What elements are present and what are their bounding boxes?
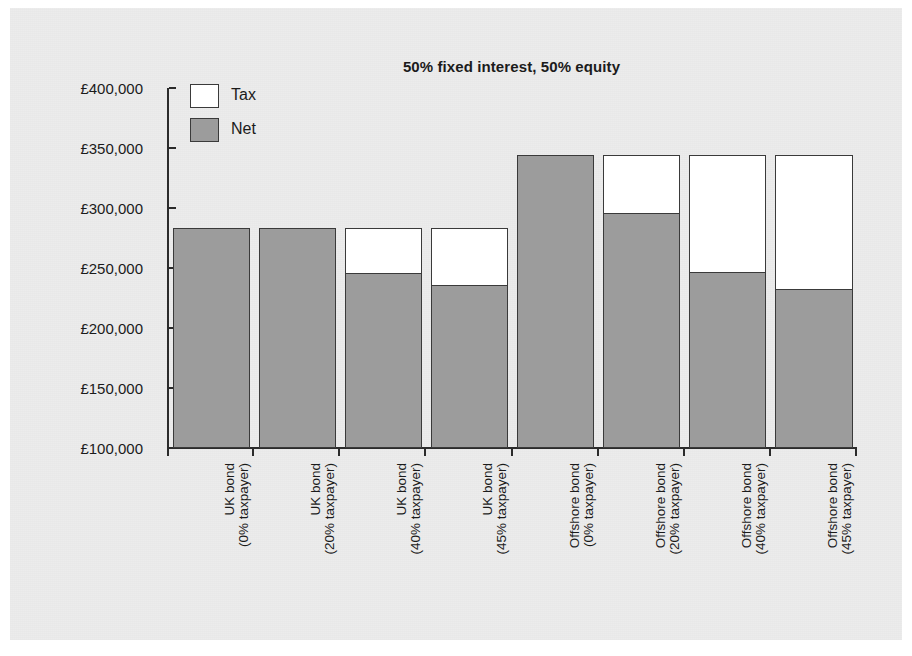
bar-segment-net[interactable] — [689, 272, 766, 448]
x-category-label: Offshore bond(20% taxpayer) — [654, 463, 682, 643]
x-category-label-line1: Offshore bond — [653, 463, 668, 548]
bar-group[interactable] — [603, 88, 680, 448]
bar-group[interactable] — [345, 88, 422, 448]
x-category-label: Offshore bond(45% taxpayer) — [826, 463, 854, 643]
bar-segment-tax[interactable] — [689, 155, 766, 273]
x-category-label-line2: (20% taxpayer) — [668, 463, 682, 643]
bar-group[interactable] — [517, 88, 594, 448]
y-tick-label: £250,000 — [23, 260, 143, 277]
y-tick-label: £400,000 — [23, 80, 143, 97]
chart-figure: 50% fixed interest, 50% equity Tax Net £… — [0, 0, 912, 656]
bar-segment-net[interactable] — [259, 228, 336, 448]
bar-group[interactable] — [689, 88, 766, 448]
bar-segment-net[interactable] — [603, 213, 680, 448]
x-category-label-line2: (0% taxpayer) — [237, 463, 251, 643]
x-category-label-line1: Offshore bond — [567, 463, 582, 548]
x-category-label: UK bond(0% taxpayer) — [223, 463, 251, 643]
x-category-label: UK bond(20% taxpayer) — [309, 463, 337, 643]
x-category-label-line2: (0% taxpayer) — [582, 463, 596, 643]
x-category-label-line1: UK bond — [308, 463, 323, 516]
bar-segment-tax[interactable] — [603, 155, 680, 214]
bar-group[interactable] — [259, 88, 336, 448]
y-tick-label: £350,000 — [23, 140, 143, 157]
bar-segment-net[interactable] — [345, 273, 422, 448]
bar-segment-tax[interactable] — [345, 228, 422, 274]
x-tick — [855, 447, 857, 456]
x-category-label-line2: (45% taxpayer) — [496, 463, 510, 643]
x-tick — [597, 447, 599, 456]
chart-title: 50% fixed interest, 50% equity — [167, 58, 856, 75]
x-tick — [167, 447, 169, 456]
x-category-label-line1: Offshore bond — [739, 463, 754, 548]
x-tick — [252, 447, 254, 456]
x-tick — [683, 447, 685, 456]
bar-segment-net[interactable] — [173, 228, 250, 448]
bar-segment-net[interactable] — [775, 288, 852, 448]
x-category-label-line1: UK bond — [394, 463, 409, 516]
bar-segment-tax[interactable] — [775, 155, 852, 290]
x-tick — [511, 447, 513, 456]
x-category-label-line1: Offshore bond — [825, 463, 840, 548]
bar-group[interactable] — [431, 88, 508, 448]
x-category-label-line2: (20% taxpayer) — [323, 463, 337, 643]
y-tick-label: £150,000 — [23, 380, 143, 397]
x-category-label-line1: UK bond — [222, 463, 237, 516]
bar-segment-tax[interactable] — [431, 228, 508, 286]
bar-group[interactable] — [173, 88, 250, 448]
plot-area: £400,000£350,000£300,000£250,000£200,000… — [167, 88, 856, 448]
x-category-label: Offshore bond(0% taxpayer) — [568, 463, 596, 643]
x-tick — [338, 447, 340, 456]
y-tick-label: £300,000 — [23, 200, 143, 217]
y-tick-label: £100,000 — [23, 440, 143, 457]
x-category-label: UK bond(40% taxpayer) — [395, 463, 423, 643]
x-category-label-line2: (40% taxpayer) — [754, 463, 768, 643]
x-category-label: UK bond(45% taxpayer) — [481, 463, 509, 643]
y-tick-label: £200,000 — [23, 320, 143, 337]
x-category-label-line2: (45% taxpayer) — [840, 463, 854, 643]
x-category-label: Offshore bond(40% taxpayer) — [740, 463, 768, 643]
x-category-label-line2: (40% taxpayer) — [409, 463, 423, 643]
bar-segment-net[interactable] — [431, 285, 508, 448]
x-tick — [424, 447, 426, 456]
x-tick — [769, 447, 771, 456]
bar-segment-net[interactable] — [517, 155, 594, 448]
bar-group[interactable] — [775, 88, 852, 448]
